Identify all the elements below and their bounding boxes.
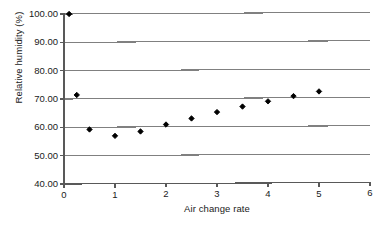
plot-area	[0, 0, 383, 225]
data-point	[189, 116, 194, 121]
gridlines	[64, 12, 370, 155]
data-points	[66, 11, 321, 138]
data-point	[66, 11, 71, 16]
gridline-y-60	[64, 126, 370, 128]
axis-ticks	[60, 14, 370, 188]
gridline-y-80	[64, 69, 370, 71]
data-point	[214, 109, 219, 114]
data-point	[316, 89, 321, 94]
data-point	[112, 133, 117, 138]
gridline-y-100	[64, 12, 370, 14]
gridline-y-50	[64, 154, 370, 156]
data-point	[138, 129, 143, 134]
data-point	[240, 104, 245, 109]
gridline-y-70	[64, 97, 370, 99]
scatter-chart: Relative humidity (%) 40.0050.0060.0070.…	[0, 0, 383, 225]
data-point	[74, 92, 79, 97]
gridline-y-90	[64, 41, 370, 43]
data-point	[265, 99, 270, 104]
